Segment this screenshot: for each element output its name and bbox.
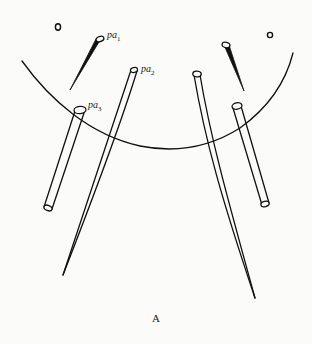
label-pa2-sub: 2 [151,69,155,77]
label-pa1-base: pa [107,29,117,40]
pore-right-icon [267,32,272,37]
seta-thick-right [232,102,270,208]
setae-drawing [0,0,312,344]
label-pa3-base: pa [88,99,98,110]
label-pa1: pa1 [107,30,121,43]
segment-margin-arc [22,53,293,149]
pore-left-icon [55,24,60,30]
seta-short-right [221,41,244,91]
seta-long-right [193,71,255,298]
label-pa2-base: pa [141,63,151,74]
seta-pa1 [70,35,105,90]
label-pa3-sub: 3 [98,105,102,113]
seta-pa3 [43,106,86,212]
figure-caption: A [0,312,312,324]
label-pa2: pa2 [141,64,155,77]
label-pa1-sub: 1 [117,35,121,43]
seta-pa2 [63,67,138,275]
label-pa3: pa3 [88,100,102,113]
